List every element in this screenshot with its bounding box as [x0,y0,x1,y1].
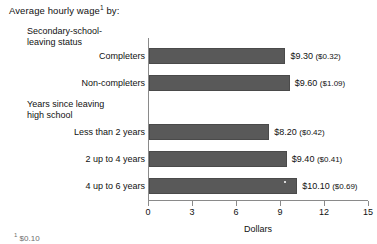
bar-standard-error: ($0.32) [315,52,340,61]
bar-category-label: Less than 2 years [74,124,145,140]
page-title: Average hourly wage1 by: [9,5,119,16]
bar-standard-error: ($1.09) [320,79,345,88]
x-axis-tick [192,201,193,206]
x-axis-tick [324,201,325,206]
bar [149,178,297,194]
footnote-marker: 1 [14,232,17,238]
bar-value-amount: $9.60 [295,78,318,88]
x-axis-tick-label: 0 [145,207,150,217]
footnote-text: $0.10 [20,234,40,243]
group-heading-secondary-school-leaving-status: Secondary-school- leaving status [27,26,102,47]
x-axis-tick-label: 12 [319,207,329,217]
bar-row: Non-completers$9.60 ($1.09) [0,75,377,91]
bar-row: 4 up to 6 years$10.10 ($0.69) [0,178,377,194]
group-heading-years-since-leaving-high-school: Years since leaving high school [27,99,104,120]
bar-chart: Average hourly wage1 by: Secondary-schoo… [0,0,377,244]
x-axis-tick [236,201,237,206]
bar-value-label: $9.60 ($1.09) [295,75,345,92]
bar [149,151,287,167]
bar-category-label: 2 up to 4 years [85,151,145,167]
bar-marker-dot [284,181,286,183]
x-axis-tick-label: 9 [277,207,282,217]
bar-category-label: Completers [99,48,145,64]
chart-footnote: 1 $0.10 [14,234,40,243]
x-axis-tick [280,201,281,206]
bar [149,48,285,64]
x-axis-tick-label: 3 [189,207,194,217]
chart-title-text: Average hourly wage [9,5,100,16]
bar-value-amount: $8.20 [274,127,297,137]
x-axis-tick-label: 15 [363,207,373,217]
x-axis-tick [148,201,149,206]
bar-standard-error: ($0.42) [299,128,324,137]
bar-value-amount: $9.40 [292,154,315,164]
bar-value-label: $8.20 ($0.42) [274,124,324,141]
bar-standard-error: ($0.69) [332,182,357,191]
bar [149,75,290,91]
bar-value-label: $9.30 ($0.32) [290,48,340,65]
x-axis-tick [368,201,369,206]
bar-row: Completers$9.30 ($0.32) [0,48,377,64]
bar-value-amount: $10.10 [302,181,330,191]
bar-row: 2 up to 4 years$9.40 ($0.41) [0,151,377,167]
x-axis-tick-label: 6 [233,207,238,217]
x-axis-title: Dollars [148,224,368,234]
bar-value-amount: $9.30 [290,51,313,61]
bar-value-label: $9.40 ($0.41) [292,151,342,168]
bar-value-label: $10.10 ($0.69) [302,178,357,195]
bar-row: Less than 2 years$8.20 ($0.42) [0,124,377,140]
bar-category-label: Non-completers [81,75,145,91]
x-axis-line [148,200,368,201]
bar [149,124,269,140]
bar-standard-error: ($0.41) [317,155,342,164]
chart-title-suffix: by: [104,5,120,16]
bar-category-label: 4 up to 6 years [85,178,145,194]
